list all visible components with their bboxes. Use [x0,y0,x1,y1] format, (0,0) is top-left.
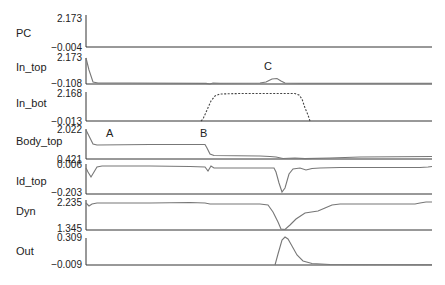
axis [86,238,432,265]
panel-label: PC [16,27,31,39]
y-min-label: −0.009 [51,259,82,270]
panel-out: Out 0.309 −0.009 [16,232,432,270]
axis [86,58,432,84]
panel-in-top: In_top 2.173 −0.108 C [16,52,432,89]
trace-dyn [86,202,432,230]
panel-label: In_top [16,61,47,73]
y-max-label: 0.006 [57,159,82,170]
y-max-label: 2.168 [57,88,82,99]
trace-body-top [86,130,432,159]
panel-dyn: Dyn 2.235 1.345 [16,197,432,234]
y-max-label: 0.309 [57,232,82,243]
panel-label: Out [16,245,34,257]
panel-pc: PC 2.173 −0.004 [16,13,432,53]
y-max-label: 2.022 [57,124,82,135]
panel-label: In_bot [16,97,47,109]
panel-label: Id_top [16,175,47,187]
y-max-label: 2.173 [57,13,82,24]
trace-in-top [86,58,432,84]
annotation-b: B [200,127,207,139]
panel-label: Body_top [16,135,62,147]
panel-label: Dyn [16,205,36,217]
panel-id-top: Id_top 0.006 −0.203 [16,159,432,198]
y-max-label: 2.173 [57,52,82,63]
trace-out [275,237,432,265]
y-max-label: 2.235 [57,197,82,208]
annotation-c: C [264,60,272,72]
annotation-a: A [106,127,114,139]
trace-in-bot [201,94,310,122]
axis [86,15,432,47]
axis [86,92,432,121]
panel-in-bot: In_bot 2.168 −0.013 [16,88,432,127]
axis [86,129,432,159]
trace-id-top [86,166,432,192]
stacked-waveform-chart: PC 2.173 −0.004 In_top 2.173 −0.108 C In… [0,0,445,285]
